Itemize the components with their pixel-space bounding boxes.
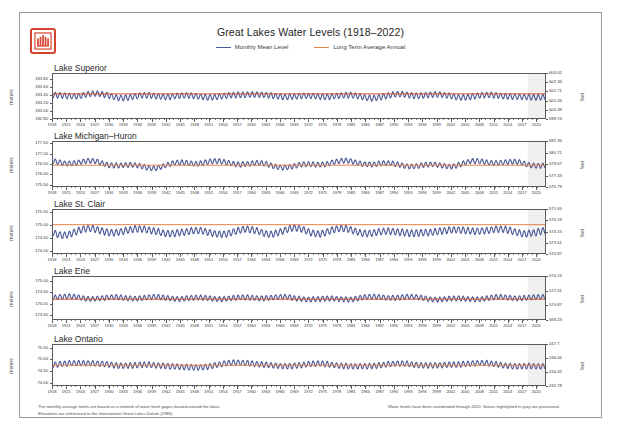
y-axis-tick-right: 600.39 bbox=[549, 108, 579, 112]
x-axis-minor-tickmark bbox=[378, 119, 379, 120]
x-axis-minor-tickmark bbox=[210, 386, 211, 387]
x-axis-minor-tickmark bbox=[467, 254, 468, 255]
x-axis-minor-tickmark bbox=[537, 386, 538, 387]
x-axis-minor-tickmark bbox=[290, 254, 291, 255]
x-axis-minor-tickmark bbox=[341, 119, 342, 120]
x-axis-minor-tickmark bbox=[182, 386, 183, 387]
lake-panel: Lake Superiormetersfeet183.80183.60183.4… bbox=[0, 63, 621, 133]
x-axis-minor-tickmark bbox=[532, 187, 533, 188]
x-axis-minor-tickmark bbox=[280, 320, 281, 321]
x-axis-minor-tickmark bbox=[229, 119, 230, 120]
x-axis-minor-tickmark bbox=[262, 320, 263, 321]
x-axis-minor-tickmark bbox=[257, 254, 258, 255]
x-axis-minor-tickmark bbox=[57, 119, 58, 120]
x-axis-minor-tickmark bbox=[169, 386, 170, 387]
y-axis-tickmark-left bbox=[50, 143, 52, 144]
x-axis-minor-tickmark bbox=[374, 254, 375, 255]
x-axis-minor-tickmark bbox=[290, 119, 291, 120]
x-axis-minor-tickmark bbox=[378, 187, 379, 188]
x-axis-minor-tickmark bbox=[499, 254, 500, 255]
y-axis-tickmark-right bbox=[546, 305, 548, 306]
x-axis-minor-tickmark bbox=[99, 187, 100, 188]
x-axis-minor-tickmark bbox=[504, 320, 505, 321]
x-axis-minor-tickmark bbox=[448, 320, 449, 321]
x-axis-minor-tickmark bbox=[360, 119, 361, 120]
x-axis-minor-tickmark bbox=[299, 254, 300, 255]
y-axis-tick-right: 599.74 bbox=[549, 117, 579, 121]
x-axis-minor-tickmark bbox=[150, 119, 151, 120]
x-axis-minor-tickmark bbox=[85, 320, 86, 321]
x-axis-minor-tickmark bbox=[499, 119, 500, 120]
x-axis-minor-tickmark bbox=[448, 119, 449, 120]
x-axis-minor-tickmark bbox=[457, 187, 458, 188]
x-axis-minor-tickmark bbox=[71, 187, 72, 188]
x-axis-minor-tickmark bbox=[299, 386, 300, 387]
x-axis-minor-tickmark bbox=[416, 386, 417, 387]
y-axis-tickmark-right bbox=[546, 82, 548, 83]
x-axis-minor-tickmark bbox=[322, 386, 323, 387]
x-axis-minor-tickmark bbox=[155, 320, 156, 321]
x-axis-minor-tickmark bbox=[252, 386, 253, 387]
lake-panel: Lake Eriemetersfeet175.00174.50174.00173… bbox=[0, 266, 621, 334]
y-axis-tickmark-right bbox=[546, 176, 548, 177]
x-axis-minor-tickmark bbox=[383, 119, 384, 120]
x-axis-minor-tickmark bbox=[136, 187, 137, 188]
x-axis-minor-tickmark bbox=[66, 386, 67, 387]
x-axis-minor-tickmark bbox=[495, 254, 496, 255]
y-axis-tick-right: 569.23 bbox=[549, 318, 579, 322]
x-axis-minor-tickmark bbox=[308, 386, 309, 387]
x-axis-minor-tickmark bbox=[196, 386, 197, 387]
x-axis-minor-tickmark bbox=[280, 119, 281, 120]
x-axis-minor-tickmark bbox=[52, 187, 53, 188]
x-axis-minor-tickmark bbox=[327, 254, 328, 255]
x-axis-minor-tickmark bbox=[80, 187, 81, 188]
x-axis-minor-tickmark bbox=[509, 254, 510, 255]
x-axis-minor-tickmark bbox=[453, 187, 454, 188]
x-axis-minor-tickmark bbox=[238, 187, 239, 188]
x-axis-minor-tickmark bbox=[518, 386, 519, 387]
x-axis-minor-tickmark bbox=[471, 386, 472, 387]
x-axis-minor-tickmark bbox=[346, 119, 347, 120]
x-axis-minor-tickmark bbox=[220, 254, 221, 255]
y-axis-unit-left: meters bbox=[8, 213, 14, 253]
x-axis-minor-tickmark bbox=[360, 320, 361, 321]
x-axis-minor-tickmark bbox=[443, 386, 444, 387]
x-axis-minor-tickmark bbox=[108, 187, 109, 188]
x-axis-minor-tickmark bbox=[248, 187, 249, 188]
x-axis-minor-tickmark bbox=[75, 119, 76, 120]
x-axis-minor-tickmark bbox=[178, 187, 179, 188]
x-axis-minor-tickmark bbox=[182, 119, 183, 120]
x-axis-minor-tickmark bbox=[308, 320, 309, 321]
x-axis-minor-tickmark bbox=[327, 320, 328, 321]
x-axis-minor-tickmark bbox=[276, 254, 277, 255]
x-axis-minor-tickmark bbox=[355, 254, 356, 255]
y-axis-tickmark-right bbox=[546, 101, 548, 102]
lake-panel-title: Lake Erie bbox=[54, 266, 90, 276]
x-axis-minor-tickmark bbox=[532, 386, 533, 387]
y-axis-tickmark-right bbox=[546, 91, 548, 92]
legend-swatch-monthly-mean-level bbox=[216, 47, 231, 48]
y-axis-tickmark-left bbox=[50, 79, 52, 80]
x-axis-minor-tickmark bbox=[313, 386, 314, 387]
y-axis-tick-left: 175.00 bbox=[8, 279, 48, 283]
lake-panel-title: Lake Michigan–Huron bbox=[54, 131, 137, 141]
y-axis-tick-right: 244.42 bbox=[549, 370, 579, 374]
x-axis-minor-tickmark bbox=[457, 320, 458, 321]
x-axis-minor-tickmark bbox=[429, 254, 430, 255]
y-axis-tick-right: 602.36 bbox=[549, 80, 579, 84]
x-axis-minor-tickmark bbox=[85, 254, 86, 255]
x-axis-minor-tickmark bbox=[425, 187, 426, 188]
x-axis-minor-tickmark bbox=[252, 320, 253, 321]
x-axis-minor-tickmark bbox=[523, 119, 524, 120]
x-axis-minor-tickmark bbox=[257, 386, 258, 387]
y-axis-tick-right: 574.15 bbox=[549, 230, 579, 234]
x-axis-minor-tickmark bbox=[57, 254, 58, 255]
x-axis-minor-tickmark bbox=[169, 187, 170, 188]
x-axis-minor-tickmark bbox=[215, 187, 216, 188]
x-axis-minor-tickmark bbox=[471, 187, 472, 188]
x-axis-minor-tickmark bbox=[248, 119, 249, 120]
x-axis-minor-tickmark bbox=[117, 320, 118, 321]
x-axis-minor-tickmark bbox=[89, 320, 90, 321]
x-axis-minor-tickmark bbox=[350, 254, 351, 255]
x-axis-minor-tickmark bbox=[308, 187, 309, 188]
